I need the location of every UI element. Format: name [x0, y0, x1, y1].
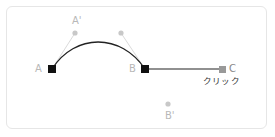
- anchor-point-a[interactable]: [48, 65, 56, 73]
- label-b: B: [129, 64, 136, 74]
- click-label: クリック: [203, 77, 240, 86]
- control-point-b-prime[interactable]: [165, 101, 170, 106]
- label-b-prime: B': [165, 111, 175, 121]
- label-a: A: [35, 64, 42, 74]
- control-point-b-in[interactable]: [118, 30, 123, 35]
- anchor-point-b[interactable]: [141, 65, 149, 73]
- label-c: C: [229, 64, 236, 74]
- control-point-a-prime[interactable]: [72, 30, 77, 35]
- anchor-point-c[interactable]: [219, 66, 226, 73]
- label-a-prime: A': [72, 16, 82, 26]
